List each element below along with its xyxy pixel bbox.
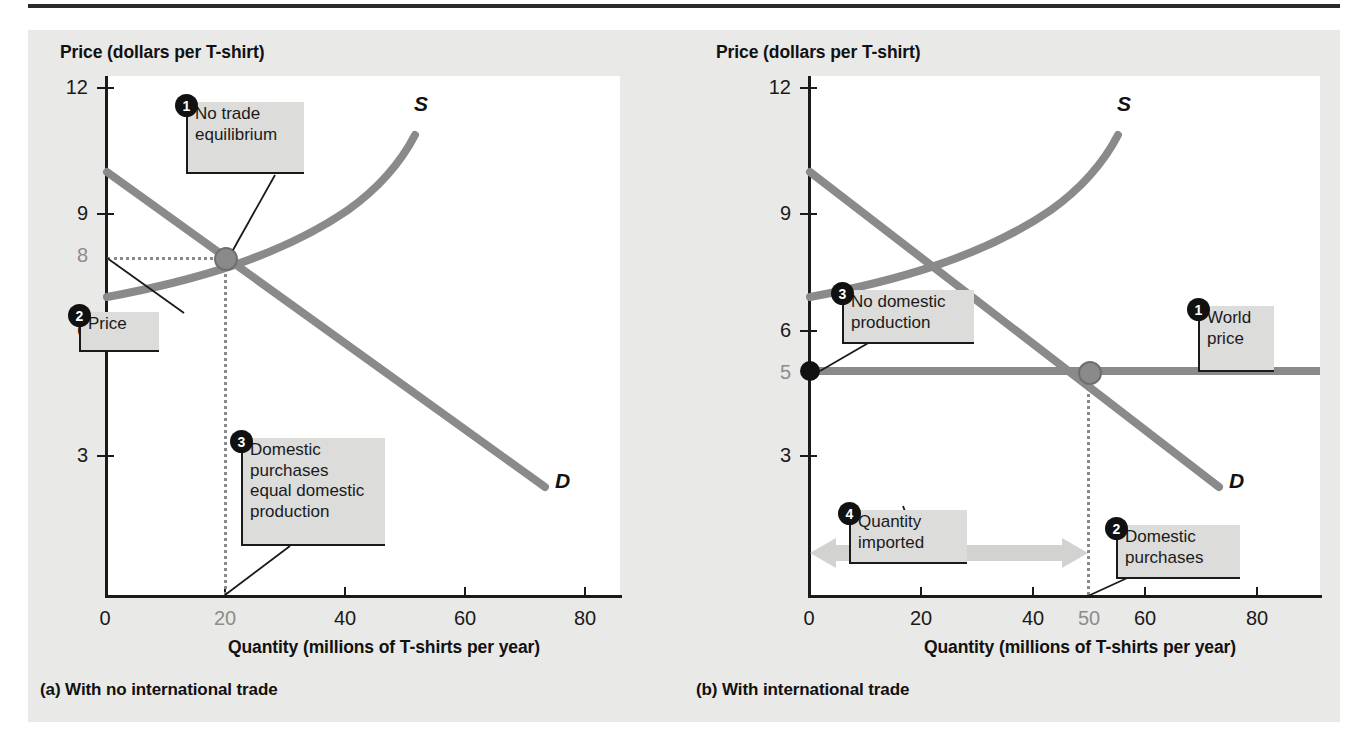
panel-a-callout-3-line-3: equal domestic	[250, 481, 377, 502]
panel-b-xtick-80	[1256, 587, 1258, 597]
panel-b-ytick-6	[800, 330, 817, 332]
panel-a-callout-3-line-2: purchases	[250, 461, 377, 482]
panel-b-no-domestic-production-point	[800, 361, 820, 381]
panel-b-callout-4-line-2: imported	[858, 533, 959, 554]
panel-a-ytick-9	[97, 213, 114, 215]
panel-b-ytick-3	[800, 455, 817, 457]
panel-b-quantity-guideline	[1087, 371, 1090, 595]
panel-a-callout-domestic-purchases: Domestic purchases equal domestic produc…	[241, 438, 385, 546]
panel-b-badge-2: 2	[1105, 517, 1128, 540]
panel-a-xlabel-60: 60	[445, 607, 485, 630]
panel-b-callout-world-price: World price	[1198, 306, 1274, 372]
panel-b-callout-2-line-2: purchases	[1125, 548, 1232, 569]
panel-b-callout-1-line-1: World	[1207, 308, 1266, 329]
panel-a-ylabel-8: 8	[46, 244, 88, 267]
panel-a-callout-1-line-2: equilibrium	[195, 125, 296, 146]
panel-b-xlabel-80: 80	[1237, 607, 1277, 630]
panel-b-callout-1-line-2: price	[1207, 329, 1266, 350]
panel-b-badge-1: 1	[1187, 298, 1210, 321]
panel-a-equilibrium-point	[214, 247, 238, 271]
panel-a-badge-1: 1	[175, 94, 198, 117]
panel-b-ylabel-3: 3	[749, 444, 791, 467]
panel-b-xlabel-60: 60	[1125, 607, 1165, 630]
panel-b-callout-4-line-1: Quantity	[858, 512, 959, 533]
panel-b-xtick-20	[920, 587, 922, 597]
panel-a-badge-2: 2	[68, 304, 91, 327]
panel-a-callout-3-line-4: production	[250, 502, 377, 523]
panel-a-ytick-3	[97, 455, 114, 457]
panel-b-badge-3: 3	[831, 282, 854, 305]
panel-b-demand-label: D	[1229, 469, 1244, 493]
panel-b-callout-3-line-1: No domestic	[851, 292, 966, 313]
panel-b-badge-4: 4	[838, 502, 861, 525]
panel-a-quantity-guideline	[224, 257, 227, 595]
panel-a-callout-3-line-1: Domestic	[250, 440, 377, 461]
panel-b-supply-label: S	[1117, 92, 1131, 116]
panel-a-x-axis-title: Quantity (millions of T-shirts per year)	[228, 637, 540, 658]
panel-a-callout-no-trade-equilibrium: No trade equilibrium	[186, 102, 304, 174]
panel-b-ytick-12	[800, 87, 817, 89]
panel-a-xlabel-40: 40	[325, 607, 365, 630]
panel-a-xtick-60	[464, 587, 466, 597]
panel-a-supply-label: S	[414, 92, 428, 116]
panel-b-xlabel-40: 40	[1013, 607, 1053, 630]
panel-a-xtick-80	[584, 587, 586, 597]
panel-b-with-international-trade: Price (dollars per T-shirt) 12 9 6 5 3 0…	[684, 30, 1340, 722]
panel-b-callout-2-line-1: Domestic	[1125, 527, 1232, 548]
panel-b-y-axis-title: Price (dollars per T-shirt)	[716, 42, 920, 63]
panel-a-badge-3: 3	[230, 430, 253, 453]
panel-a-xtick-40	[344, 587, 346, 597]
panel-b-xtick-60	[1144, 587, 1146, 597]
panel-b-ylabel-9: 9	[749, 202, 791, 225]
panel-a-x-axis	[105, 595, 622, 598]
panel-b-xlabel-20: 20	[901, 607, 941, 630]
panel-a-callout-2-line-1: Price	[88, 314, 151, 335]
panel-a-ylabel-3: 3	[46, 444, 88, 467]
panel-a-xlabel-80: 80	[565, 607, 605, 630]
panel-b-caption: (b) With international trade	[696, 680, 909, 700]
panel-a-demand-label: D	[555, 469, 570, 493]
panel-b-domestic-purchases-point	[1078, 361, 1102, 385]
panel-b-callout-3-line-2: production	[851, 313, 966, 334]
panel-b-ylabel-12: 12	[749, 76, 791, 99]
panel-b-callout-domestic-purchases: Domestic purchases	[1116, 525, 1240, 579]
panel-a-ylabel-9: 9	[46, 202, 88, 225]
panel-b-x-axis	[808, 595, 1322, 598]
top-rule	[28, 4, 1340, 8]
panel-a-xlabel-0: 0	[85, 607, 125, 630]
panel-a-callout-price: Price	[79, 312, 159, 352]
figure-root: Price (dollars per T-shirt) 12 9 8 6 3 0…	[0, 0, 1367, 751]
panel-b-x-axis-title: Quantity (millions of T-shirts per year)	[924, 637, 1236, 658]
panel-b-y-axis	[808, 76, 811, 597]
panel-b-xtick-40	[1032, 587, 1034, 597]
panel-a-xlabel-20: 20	[205, 607, 245, 630]
panel-a-y-axis-title: Price (dollars per T-shirt)	[60, 42, 264, 63]
panel-a-ytick-12	[97, 87, 114, 89]
panel-a-callout-1-line-1: No trade	[195, 104, 296, 125]
panel-a-ylabel-12: 12	[46, 76, 88, 99]
panel-a-no-international-trade: Price (dollars per T-shirt) 12 9 8 6 3 0…	[28, 30, 684, 722]
panel-b-xlabel-0: 0	[789, 607, 829, 630]
panel-a-price-guideline	[107, 257, 225, 260]
panel-a-caption: (a) With no international trade	[40, 680, 278, 700]
panel-b-ylabel-5: 5	[749, 361, 791, 384]
panel-b-ytick-9	[800, 213, 817, 215]
panel-b-callout-no-domestic-production: No domestic production	[842, 290, 974, 344]
panel-b-callout-quantity-imported: Quantity imported	[849, 510, 967, 564]
panel-b-ylabel-6: 6	[749, 319, 791, 342]
panel-b-xlabel-50: 50	[1069, 607, 1109, 630]
